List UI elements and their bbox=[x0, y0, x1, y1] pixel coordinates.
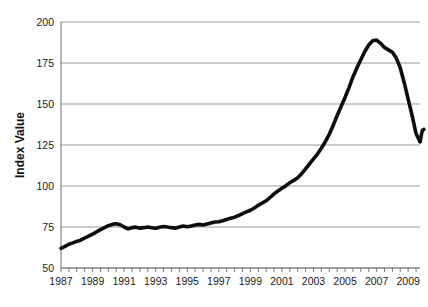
y-tick-label: 175 bbox=[36, 57, 54, 69]
x-tick-label: 1987 bbox=[49, 275, 73, 287]
y-tick-label: 50 bbox=[42, 262, 54, 274]
y-axis-title: Index Value bbox=[13, 112, 27, 178]
y-axis-tick-labels: 5075100125150175200 bbox=[36, 16, 54, 274]
data-series-line bbox=[61, 40, 420, 248]
x-tick-label: 2009 bbox=[396, 275, 420, 287]
figure-caption bbox=[0, 298, 428, 307]
x-tick-label: 2005 bbox=[333, 275, 357, 287]
x-axis-tick-labels: 1987198919911993199519971999200120032005… bbox=[49, 275, 420, 287]
x-tick-label: 1999 bbox=[239, 275, 263, 287]
y-tick-label: 150 bbox=[36, 98, 54, 110]
line-chart: 5075100125150175200 19871989199119931995… bbox=[0, 0, 428, 307]
x-tick-label: 1989 bbox=[81, 275, 105, 287]
y-tick-label: 75 bbox=[42, 221, 54, 233]
data-series-line-tail bbox=[420, 129, 424, 141]
x-axis-tick-marks bbox=[61, 268, 416, 272]
x-tick-label: 2001 bbox=[270, 275, 294, 287]
y-tick-label: 125 bbox=[36, 139, 54, 151]
x-tick-label: 1991 bbox=[112, 275, 136, 287]
chart-figure: 5075100125150175200 19871989199119931995… bbox=[0, 0, 428, 307]
x-tick-label: 1995 bbox=[176, 275, 200, 287]
x-tick-label: 2003 bbox=[302, 275, 326, 287]
y-tick-label: 100 bbox=[36, 180, 54, 192]
x-tick-label: 2007 bbox=[365, 275, 389, 287]
gridlines bbox=[61, 22, 420, 268]
x-tick-label: 1993 bbox=[144, 275, 168, 287]
x-tick-label: 1997 bbox=[207, 275, 231, 287]
y-tick-label: 200 bbox=[36, 16, 54, 28]
